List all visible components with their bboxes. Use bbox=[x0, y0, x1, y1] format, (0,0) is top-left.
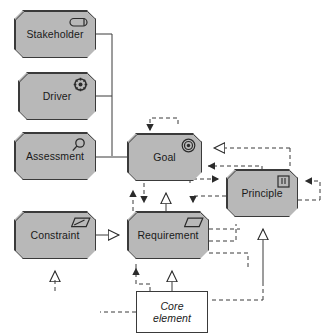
node-principle[interactable]: Principle bbox=[226, 169, 298, 217]
role-icon bbox=[69, 16, 91, 28]
node-stakeholder[interactable]: Stakeholder bbox=[14, 10, 96, 58]
target-icon bbox=[181, 138, 196, 153]
wire-requirement-principle-influence-2 bbox=[209, 224, 236, 241]
driver-outline bbox=[19, 73, 97, 121]
principle-icon bbox=[277, 175, 290, 188]
diagram-canvas: Stakeholder Driver Assessment bbox=[0, 0, 331, 336]
node-requirement[interactable]: Requirement bbox=[127, 211, 209, 259]
node-label-core-element: Core element bbox=[153, 300, 191, 324]
node-label-assessment: Assessment bbox=[26, 150, 84, 162]
node-label-driver: Driver bbox=[43, 90, 72, 102]
wire-principle-requirement-influence bbox=[193, 196, 226, 203]
stakeholder-outline bbox=[15, 11, 97, 59]
wire-principle-self-influence bbox=[305, 181, 320, 200]
wire-core-requirement-influence bbox=[136, 268, 150, 291]
node-core-element[interactable]: Core element bbox=[136, 291, 208, 333]
requirement-outline bbox=[128, 212, 210, 260]
constraint-icon bbox=[71, 217, 91, 228]
magnifier-icon bbox=[71, 137, 87, 153]
node-label-goal: Goal bbox=[153, 151, 176, 163]
node-label-stakeholder: Stakeholder bbox=[26, 28, 83, 40]
goal-outline bbox=[128, 134, 203, 182]
wire-goal-self-influence bbox=[150, 118, 178, 131]
node-constraint[interactable]: Constraint bbox=[14, 211, 96, 259]
requirement-icon bbox=[184, 217, 204, 228]
wire-stakeholder-goal bbox=[96, 34, 112, 156]
principle-outline bbox=[227, 170, 299, 218]
node-goal[interactable]: Goal bbox=[127, 133, 202, 181]
node-driver[interactable]: Driver bbox=[18, 72, 96, 120]
node-label-requirement: Requirement bbox=[137, 229, 198, 241]
node-label-principle: Principle bbox=[241, 187, 282, 199]
assessment-outline bbox=[15, 133, 97, 181]
steering-wheel-icon bbox=[73, 77, 88, 92]
constraint-outline bbox=[15, 212, 97, 260]
node-assessment[interactable]: Assessment bbox=[14, 132, 96, 180]
node-label-constraint: Constraint bbox=[31, 229, 80, 241]
wire-requirement-principle-lower bbox=[209, 253, 248, 268]
